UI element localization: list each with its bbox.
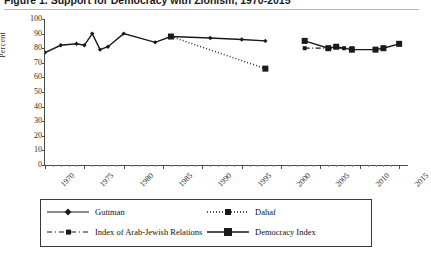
x-tick-minor [61,165,62,167]
x-tick-minor [257,165,258,167]
x-tick-minor [265,165,266,167]
x-tick-major [124,165,125,169]
y-tick-mark [42,19,45,20]
x-tick-minor [53,165,54,167]
chart-legend: Guttman Dahaf Index of Arab-Jewish Relat… [40,199,372,247]
x-tick-major [242,165,243,169]
x-tick-minor [139,165,140,167]
x-tick-major [163,165,164,169]
data-point-marker [240,37,244,41]
series-democracy-index [302,38,402,53]
x-tick-minor [179,165,180,167]
legend-item-democracy-index[interactable]: Democracy Index [201,224,369,240]
x-tick-label: 1985 [177,171,195,189]
y-tick-mark [42,121,45,122]
x-tick-label: 2010 [373,171,391,189]
y-tick-label: 40 [34,103,42,111]
y-tick-mark [42,150,45,151]
x-tick-minor [155,165,156,167]
x-tick-minor [116,165,117,167]
x-tick-minor [218,165,219,167]
plot-area: 0102030405060708090100 [45,19,407,165]
page-title: Figure 1. Support for Democracy with Zio… [0,0,423,6]
legend-label-guttman: Guttman [95,204,125,220]
series-dahaf [168,34,268,72]
y-tick-mark [42,92,45,93]
x-tick-major [399,165,400,169]
legend-item-dahaf[interactable]: Dahaf [201,204,369,220]
data-point-marker [98,47,102,51]
y-tick-mark [42,48,45,49]
x-tick-minor [313,165,314,167]
y-axis-title: Percent [0,0,7,58]
y-tick-label: 10 [34,146,42,154]
data-point-marker [153,40,157,44]
legend-swatch-index-arab-jewish-relations [45,224,91,240]
y-tick-mark [42,63,45,64]
x-tick-minor [368,165,369,167]
y-tick-label: 30 [34,117,42,125]
data-point-marker [59,43,63,47]
data-point-marker [263,39,267,43]
x-tick-minor [383,165,384,167]
x-tick-minor [226,165,227,167]
data-point-marker [208,36,212,40]
legend-label-democracy-index: Democracy Index [255,224,316,240]
x-tick-minor [305,165,306,167]
legend-item-index-arab-jewish-relations[interactable]: Index of Arab-Jewish Relations [41,224,201,240]
series-guttman [45,31,268,54]
x-tick-minor [376,165,377,167]
x-tick-minor [69,165,70,167]
y-tick-mark [42,136,45,137]
x-tick-minor [352,165,353,167]
legend-item-guttman[interactable]: Guttman [41,204,201,220]
legend-swatch-dahaf [205,204,251,220]
x-tick-minor [391,165,392,167]
y-tick-label: 0 [38,161,42,169]
x-tick-minor [289,165,290,167]
legend-swatch-guttman [45,204,91,220]
x-tick-minor [344,165,345,167]
data-point-marker [333,44,339,50]
data-point-marker [262,66,268,72]
y-tick-label: 50 [34,88,42,96]
x-tick-label: 2000 [295,171,313,189]
x-tick-minor [234,165,235,167]
data-point-marker [303,46,307,50]
legend-swatch-democracy-index [205,224,251,240]
x-tick-label: 1990 [216,171,234,189]
data-point-marker [74,42,78,46]
x-tick-minor [297,165,298,167]
x-tick-label: 1975 [98,171,116,189]
y-tick-mark [42,107,45,108]
x-tick-minor [195,165,196,167]
x-tick-minor [336,165,337,167]
x-tick-minor [187,165,188,167]
x-tick-label: 1970 [59,171,77,189]
chart-canvas [45,19,407,165]
x-tick-minor [132,165,133,167]
data-point-marker [396,41,402,47]
x-tick-minor [171,165,172,167]
data-point-marker [373,47,379,53]
y-tick-mark [42,34,45,35]
x-tick-major [202,165,203,169]
y-tick-label: 20 [34,132,42,140]
x-tick-minor [273,165,274,167]
x-tick-minor [250,165,251,167]
y-tick-label: 70 [34,59,42,67]
data-point-marker [380,45,386,51]
y-tick-label: 100 [30,15,42,23]
legend-label-index-arab-jewish-relations: Index of Arab-Jewish Relations [95,224,202,240]
title-divider [4,9,419,10]
data-point-marker [349,47,355,53]
y-tick-mark [42,77,45,78]
x-tick-label: 2015 [413,171,431,189]
x-tick-minor [92,165,93,167]
x-tick-major [281,165,282,169]
x-tick-minor [210,165,211,167]
x-tick-label: 2005 [334,171,352,189]
x-tick-major [320,165,321,169]
x-tick-minor [328,165,329,167]
